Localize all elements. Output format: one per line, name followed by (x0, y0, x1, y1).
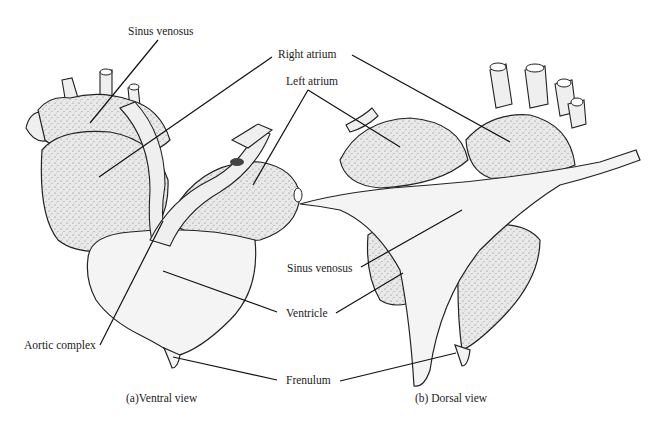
caption-dorsal-view: (b) Dorsal view (415, 392, 487, 405)
ventral-view-heart (26, 69, 302, 368)
caption-ventral-view: (a)Ventral view (126, 392, 197, 405)
label-left-atrium: Left atrium (286, 75, 338, 88)
label-sinus-venosus-top: Sinus venosus (128, 25, 194, 38)
label-ventricle: Ventricle (286, 307, 328, 320)
heart-illustration (0, 0, 664, 422)
heart-diagram: Sinus venosus Right atrium Left atrium S… (0, 0, 664, 422)
label-aortic-complex: Aortic complex (24, 339, 96, 352)
label-sinus-venosus-mid: Sinus venosus (287, 262, 353, 275)
label-right-atrium: Right atrium (278, 48, 336, 61)
dorsal-view-heart (300, 63, 640, 386)
label-frenulum: Frenulum (286, 374, 331, 387)
